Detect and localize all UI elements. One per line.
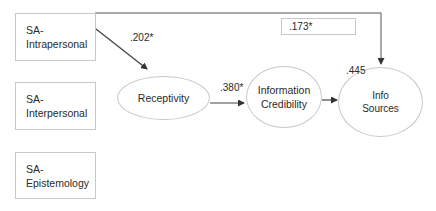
ellipse-information-credibility: Information Credibility [246,66,322,128]
box-sa-epistemology: SA- Epistemology [15,152,96,199]
ellipse-info-sources: Info Sources [338,67,423,137]
ellipse-label-line1: Info [372,89,389,102]
box-sa-interpersonal: SA- Interpersonal [15,82,96,130]
ellipse-label: Receptivity [138,91,189,105]
ellipse-label-line1: Information [258,83,311,97]
ellipse-label-line2: Sources [362,102,399,115]
coef-receptivity-credibility: .380* [220,82,243,93]
ellipse-receptivity: Receptivity [117,76,210,120]
box-label-line1: SA- [26,162,95,176]
coef-credibility-info-sources: .445 [346,65,365,76]
ellipse-label-line2: Credibility [261,97,307,111]
coef-intrapersonal-info-sources: .173* [281,18,356,35]
box-label-line1: SA- [26,23,95,37]
box-label-line2: Intrapersonal [26,37,95,51]
coef-value: .173* [289,21,312,32]
box-sa-intrapersonal: SA- Intrapersonal [15,13,96,61]
box-label-line2: Interpersonal [26,106,95,120]
box-label-line1: SA- [26,92,95,106]
coef-intrapersonal-receptivity: .202* [130,32,153,43]
box-label-line2: Epistemology [26,176,95,190]
